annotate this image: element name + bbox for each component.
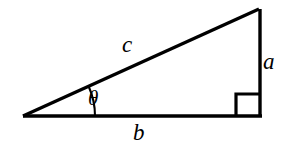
right-angle-marker-icon (236, 94, 259, 116)
right-triangle-figure: c a b θ (0, 0, 287, 145)
side-c-line (23, 9, 259, 116)
label-angle-theta: θ (88, 88, 98, 109)
label-side-a: a (263, 50, 275, 73)
label-side-b: b (133, 121, 145, 144)
label-hypotenuse-c: c (122, 33, 132, 56)
